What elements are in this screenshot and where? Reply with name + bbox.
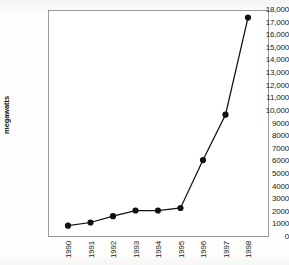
data-point-1997 (222, 112, 228, 118)
data-point-1998 (245, 14, 251, 20)
series-markers (65, 14, 251, 228)
line-chart: 18,00017,00016,00015,00014,00013,00012,0… (0, 0, 289, 265)
x-axis-tick-1994: 1994 (153, 241, 164, 258)
x-axis-tick-1993: 1993 (131, 241, 142, 258)
data-point-1996 (200, 157, 206, 163)
data-series-layer (48, 10, 269, 237)
x-axis-tick-1992: 1992 (108, 241, 119, 258)
data-point-1990 (65, 223, 71, 229)
data-point-1994 (155, 207, 161, 213)
x-axis-tick-1997: 1997 (221, 241, 232, 258)
x-axis-tick-1996: 1996 (198, 241, 209, 258)
data-point-1991 (87, 219, 93, 225)
series-line-megawatts (68, 18, 248, 226)
data-point-1995 (177, 205, 183, 211)
x-axis-tick-1995: 1995 (176, 241, 187, 258)
data-point-1993 (132, 207, 138, 213)
y-axis-title: megawatts (2, 96, 14, 134)
x-axis-tick-1991: 1991 (86, 241, 97, 258)
data-point-1992 (110, 213, 116, 219)
x-axis-tick-1990: 1990 (63, 241, 74, 258)
x-axis-tick-1998: 1998 (243, 241, 254, 258)
